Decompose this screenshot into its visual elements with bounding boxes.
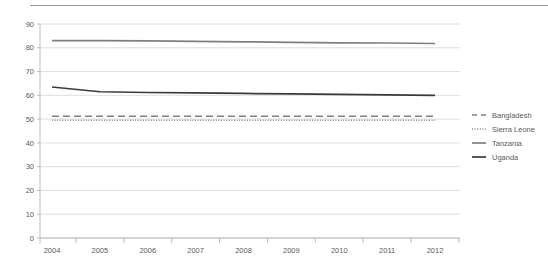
- plot-area-wrapper: 0102030405060708090 20042005200620072008…: [0, 0, 548, 265]
- legend-label-bangladesh: Bangladesh: [492, 111, 532, 120]
- y-axis-label: 0: [30, 234, 34, 243]
- y-axis-label: 40: [26, 139, 34, 148]
- x-axis-label: 2004: [44, 246, 61, 255]
- x-axis-label: 2009: [283, 246, 300, 255]
- x-axis-label: 2011: [379, 246, 395, 255]
- y-axis-label: 20: [26, 186, 34, 195]
- x-axis-label: 2008: [235, 246, 252, 255]
- series-line-tanzania: [52, 41, 435, 44]
- y-axis-label: 50: [26, 115, 34, 124]
- chart-figure: 0102030405060708090 20042005200620072008…: [0, 0, 548, 265]
- y-axis-label: 10: [26, 210, 34, 219]
- legend-label-uganda: Uganda: [492, 153, 519, 162]
- line-chart-svg: 0102030405060708090 20042005200620072008…: [0, 0, 548, 265]
- x-axis-group: [40, 24, 460, 244]
- x-axis-ticks-group: [76, 238, 459, 243]
- x-axis-label: 2006: [139, 246, 156, 255]
- x-axis-label: 2005: [92, 246, 109, 255]
- legend-label-tanzania: Tanzania: [492, 139, 523, 148]
- x-axis-label: 2007: [187, 246, 204, 255]
- series-line-uganda: [52, 87, 435, 95]
- x-axis-label: 2012: [427, 246, 444, 255]
- x-axis-label: 2010: [331, 246, 348, 255]
- x-axis-labels-group: 200420052006200720082009201020112012: [44, 246, 444, 255]
- y-axis-label: 30: [26, 162, 34, 171]
- gridlines-group: [40, 24, 460, 238]
- y-axis-label: 60: [26, 91, 34, 100]
- legend-group[interactable]: BangladeshSierra LeoneTanzaniaUganda: [468, 109, 540, 163]
- y-axis-labels-group: 0102030405060708090: [26, 20, 34, 243]
- y-axis-label: 80: [26, 43, 34, 52]
- y-axis-label: 90: [26, 20, 34, 29]
- legend-label-sierra-leone: Sierra Leone: [492, 125, 535, 134]
- data-series-group: [52, 41, 435, 121]
- y-axis-label: 70: [26, 67, 34, 76]
